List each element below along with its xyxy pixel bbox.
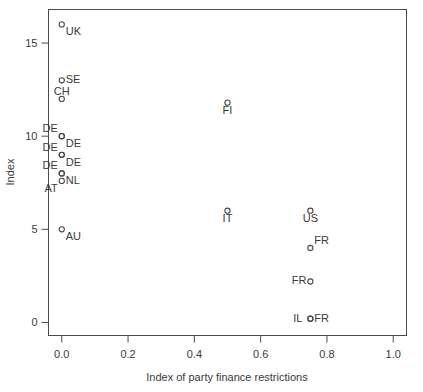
data-point-label: AT (45, 182, 59, 194)
data-point-label: DE (42, 141, 57, 153)
y-tick-label: 0 (31, 316, 37, 328)
y-tick-label: 5 (31, 223, 37, 235)
data-point-label: FR (292, 274, 307, 286)
data-point-label: DE (42, 122, 57, 134)
y-tick-label: 10 (25, 130, 37, 142)
data-point-label: IL (293, 312, 302, 324)
data-point-label: UK (66, 25, 82, 37)
x-tick-label: 0.0 (54, 348, 69, 360)
data-point-label: FI (223, 104, 233, 116)
scatter-plot-svg: 0.00.20.40.60.81.0 051015 UKSECHFIDEDEDE… (0, 0, 423, 392)
x-axis-label: Index of party finance restrictions (146, 371, 308, 383)
data-point-label: DE (42, 159, 57, 171)
data-point-label: DE (66, 156, 81, 168)
data-point-label: CH (54, 85, 70, 97)
y-axis-label: Index (4, 158, 16, 185)
y-tick-label: 15 (25, 37, 37, 49)
scatter-plot-figure: 0.00.20.40.60.81.0 051015 UKSECHFIDEDEDE… (0, 0, 423, 392)
x-tick-label: 0.8 (319, 348, 334, 360)
data-point-label: SE (66, 73, 81, 85)
x-tick-label: 0.2 (120, 348, 135, 360)
plot-background (0, 0, 423, 392)
data-point-label: FR (314, 234, 329, 246)
data-point-label: IT (223, 212, 233, 224)
data-point-label: US (303, 212, 318, 224)
x-tick-label: 0.4 (187, 348, 202, 360)
x-tick-label: 1.0 (386, 348, 401, 360)
data-point-label: AU (66, 230, 81, 242)
data-point-label: FR (314, 312, 329, 324)
data-point-label: NL (66, 174, 80, 186)
x-tick-label: 0.6 (253, 348, 268, 360)
data-point-label: DE (66, 137, 81, 149)
